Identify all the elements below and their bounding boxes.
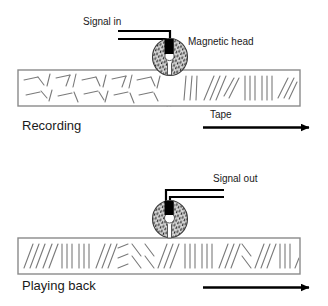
magnetic-head-recording [153,39,188,76]
magnetic-head-label: Magnetic head [188,36,254,47]
signal-in-label: Signal in [83,16,121,27]
head-coil [165,201,174,215]
head-coil [165,39,174,54]
signal-out-label: Signal out [213,173,258,184]
recording-caption: Recording [22,118,81,133]
tape-label: Tape [210,109,232,120]
magnetic-tape-diagram: Signal in Magnetic head [0,0,328,306]
playing-back-caption: Playing back [22,278,96,293]
magnetic-head-playback [153,201,188,239]
diagram-canvas: Signal in Magnetic head [0,0,328,306]
tape-body-playback [18,238,300,274]
tape-body-recording [18,70,300,106]
